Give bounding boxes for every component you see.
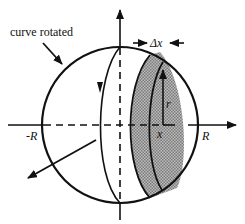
- rotation-direction-arrow: [28, 140, 96, 178]
- pos-r-label: R: [201, 129, 210, 143]
- radius-label: r: [166, 97, 171, 111]
- rotation-arrow-icon: [97, 82, 103, 93]
- x-position-label: x: [156, 127, 163, 141]
- curve-rotated-label: curve rotated: [10, 25, 73, 39]
- curve-pointer-arrow: [43, 43, 62, 64]
- delta-x-label: Δx: [149, 36, 163, 50]
- neg-r-label: -R: [26, 129, 38, 143]
- sphere-slice-diagram: curve rotated Δx r x -R R: [0, 0, 245, 224]
